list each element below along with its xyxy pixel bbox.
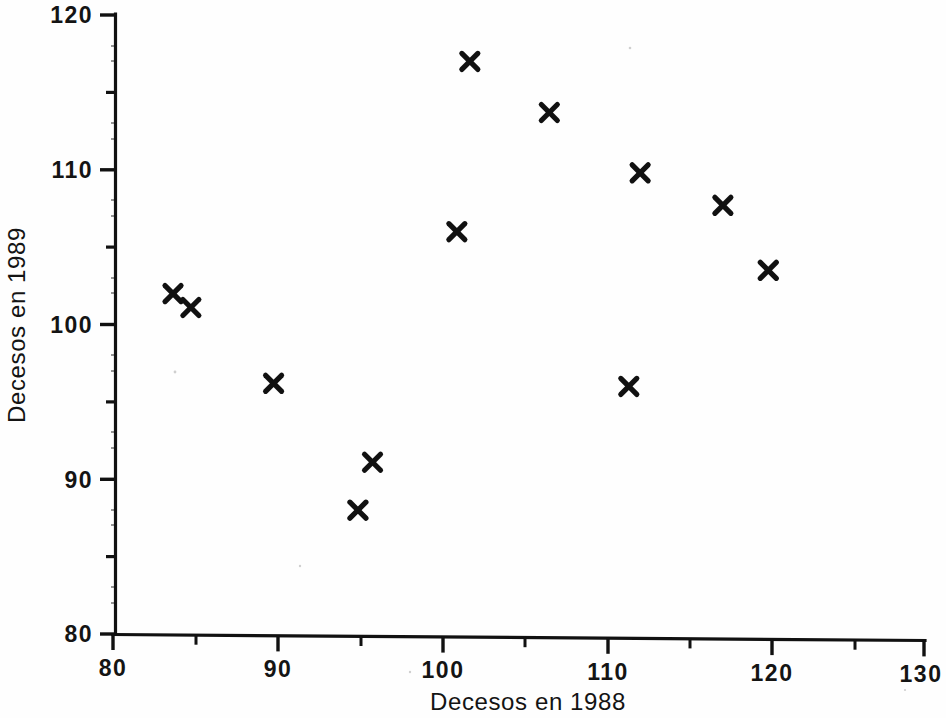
y-tick-label-120: 120 xyxy=(50,2,93,28)
figure-background xyxy=(0,0,946,718)
y-tick-label-100: 100 xyxy=(50,312,93,338)
x-tick-label-90: 90 xyxy=(264,656,293,682)
y-tick-label-90: 90 xyxy=(64,467,93,493)
chart-figure: 120 110 100 90 80 Decesos en 1989 xyxy=(0,0,946,718)
scatter-plot: 120 110 100 90 80 Decesos en 1989 xyxy=(0,0,946,718)
x-tick-label-100: 100 xyxy=(422,657,465,683)
y-tick-label-110: 110 xyxy=(51,157,93,183)
x-tick-label-130: 130 xyxy=(900,661,943,687)
x-tick-label-120: 120 xyxy=(751,660,794,686)
x-tick-label-80: 80 xyxy=(99,655,128,681)
y-tick-label-80: 80 xyxy=(64,621,93,647)
x-tick-label-110: 110 xyxy=(587,659,629,685)
y-axis-title: Decesos en 1989 xyxy=(3,227,30,423)
x-axis-title: Decesos en 1988 xyxy=(430,688,626,715)
